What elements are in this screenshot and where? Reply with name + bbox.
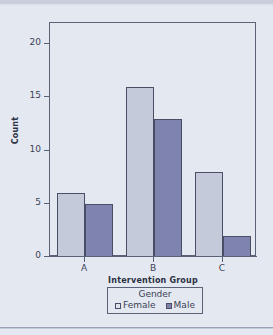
legend-swatch-female-icon (115, 303, 121, 309)
bar-b-male[interactable] (154, 119, 182, 257)
x-tick (222, 257, 223, 262)
x-tick (153, 257, 154, 262)
y-tick-label: 20 (0, 37, 49, 47)
bar-c-female[interactable] (195, 172, 223, 257)
legend-items: Female Male (108, 301, 202, 310)
x-axis-title: Intervention Group (49, 276, 257, 285)
x-tick-label: C (202, 263, 242, 273)
bar-b-female[interactable] (126, 87, 154, 257)
legend-label-male: Male (174, 301, 195, 310)
legend-label-female: Female (123, 301, 156, 310)
legend-item-female[interactable]: Female (115, 301, 156, 310)
y-tick-label: 0 (0, 250, 49, 260)
legend-swatch-male-icon (166, 303, 172, 309)
bottom-divider-highlight (0, 328, 273, 329)
bar-a-female[interactable] (57, 193, 85, 257)
bar-c-male[interactable] (223, 236, 251, 257)
plot-frame (49, 22, 256, 256)
x-tick-label: A (64, 263, 104, 273)
y-axis-title: Count (11, 108, 20, 154)
chart-root: 05101520 Count ABC Intervention Group Ge… (0, 0, 273, 335)
y-tick-label: 10 (0, 144, 49, 154)
legend-box: Gender Female Male (107, 287, 203, 314)
x-tick (84, 257, 85, 262)
bars-layer (50, 23, 255, 255)
x-tick-label: B (133, 263, 173, 273)
top-band-highlight (0, 4, 273, 6)
y-tick-label: 5 (0, 197, 49, 207)
legend-title: Gender (108, 289, 202, 299)
legend-item-male[interactable]: Male (166, 301, 195, 310)
bar-a-male[interactable] (85, 204, 113, 257)
y-axis-line (49, 22, 50, 257)
y-tick-label: 15 (0, 90, 49, 100)
